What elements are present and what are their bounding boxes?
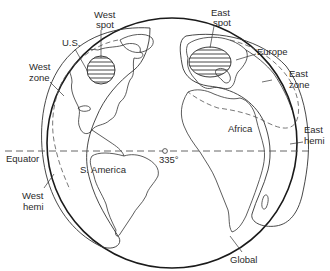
east-spot-beam [189,47,231,77]
africa-label: Africa [228,123,253,134]
global-label: Global [230,254,257,265]
satellite-coverage-diagram: West spot U.S. West zone East spot Europ… [0,0,330,271]
sub-satellite-point-marker [163,149,168,154]
west-spot-label-2: spot [96,19,114,30]
africa-outline [181,90,264,232]
leader-lines [44,26,303,252]
west-hemi-label-1: West [22,190,44,201]
lake-outline [78,106,90,111]
europe-label: Europe [257,46,288,57]
east-spot-label-2: spot [213,17,231,28]
central-america-outline [92,130,124,156]
west-zone-label-2: zone [29,72,50,83]
us-label: U.S. [62,37,80,48]
madagascar-outline [262,195,268,209]
east-hemi-label-2: hemi [304,135,325,146]
east-zone-label-1: East [289,68,308,79]
east-hemi-label-1: East [304,124,323,135]
east-zone-label-2: zone [289,79,310,90]
west-zone-label-1: West [29,61,51,72]
equator-label: Equator [6,153,39,164]
west-spot-beam [87,56,115,84]
west-hemi-label-2: hemi [23,201,44,212]
middle-east-outline [246,50,292,110]
s-america-label: S. America [80,164,127,175]
longitude-label: 335° [159,154,179,165]
